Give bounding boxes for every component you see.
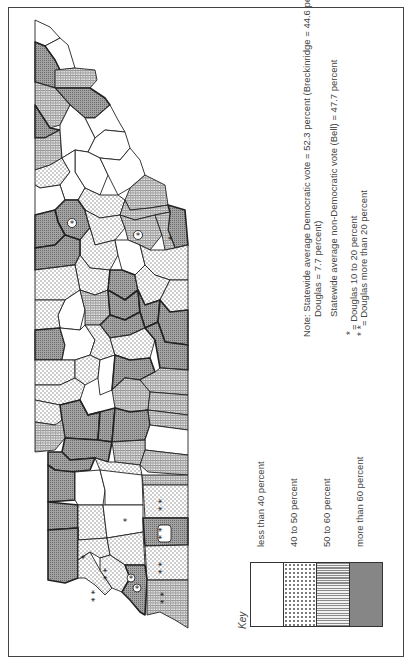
note-single-star-symbol: * <box>346 331 356 335</box>
legend-label-50-to-60: 50 to 60 percent <box>322 478 332 547</box>
county <box>35 420 65 452</box>
douglas-marker: * * <box>157 499 167 511</box>
svg-text:*: * <box>129 574 134 584</box>
douglas-marker: * * <box>102 568 112 580</box>
legend-swatch-40-to-50 <box>284 563 317 626</box>
county <box>140 450 188 475</box>
legend-label-40-to-50: 40 to 50 percent <box>289 478 299 547</box>
svg-text:* *: * * <box>157 527 167 539</box>
note-douglas-share: Douglas = 7.7 percent) <box>313 221 323 317</box>
douglas-marker-boxed: * * <box>157 525 172 542</box>
county <box>48 528 78 583</box>
county <box>142 475 188 485</box>
legend <box>250 562 383 627</box>
legend-label-less-than-40: less than 40 percent <box>256 461 266 547</box>
county <box>55 68 97 88</box>
note-democratic-vote: Note: Statewide average Democratic vote … <box>302 0 312 337</box>
douglas-marker: * * <box>159 592 169 604</box>
county <box>78 505 107 540</box>
county <box>112 440 145 465</box>
note-double-star-symbol: * * <box>357 325 367 336</box>
douglas-marker: * <box>168 235 173 245</box>
legend-title: Key <box>238 612 248 629</box>
legend-swatch-50-to-60 <box>317 563 350 626</box>
svg-text:*: * <box>135 584 140 594</box>
legend-swatch-less-than-40 <box>251 563 284 626</box>
legend-swatch-more-than-60 <box>350 563 382 626</box>
svg-text:*: * <box>70 219 75 229</box>
legend-label-more-than-60: more than 60 percent <box>355 457 365 547</box>
note-bell-vote: Statewide average non-Democratic vote (B… <box>329 60 339 317</box>
county <box>48 502 78 530</box>
douglas-marker: * * <box>90 590 100 602</box>
douglas-marker: * <box>81 554 86 564</box>
note-double-star: = Douglas more than 20 percent <box>359 190 369 326</box>
douglas-marker: * <box>123 517 128 527</box>
county <box>60 400 100 440</box>
svg-text:*: * <box>136 231 141 241</box>
douglas-marker: * * <box>157 562 167 574</box>
county <box>100 470 143 505</box>
county <box>75 470 105 505</box>
county <box>112 408 150 442</box>
county <box>35 328 65 360</box>
